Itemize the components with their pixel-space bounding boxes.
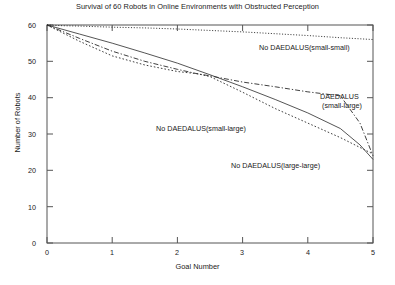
tick-marks [47,25,373,243]
plot-area [0,0,395,285]
series-group [47,25,373,159]
series-line-0 [47,25,373,40]
series-line-2 [47,25,373,156]
chart-figure: Survival of 60 Robots in Online Environm… [0,0,395,285]
axes-frame [47,25,373,243]
